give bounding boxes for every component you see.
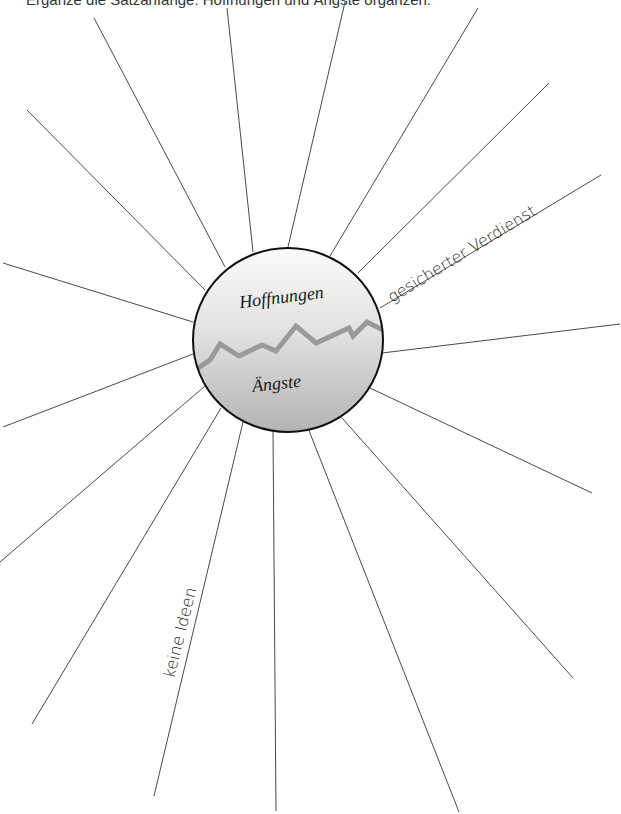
- ray-line: [288, 2, 345, 247]
- ray-line-filled: [154, 422, 243, 796]
- ray-line: [358, 83, 549, 273]
- ray-line: [27, 110, 205, 290]
- ray-line: [273, 431, 276, 811]
- ray-line: [227, 8, 253, 252]
- mind-map-worksheet: Ergänze die Satzanfänge: Hoffnungen und …: [0, 0, 621, 814]
- ray-line: [3, 263, 193, 322]
- ray-line: [330, 8, 478, 256]
- ray-line: [0, 386, 205, 562]
- ray-line: [308, 428, 459, 812]
- ray-line: [370, 388, 592, 493]
- ray-line: [3, 354, 193, 427]
- center-ball: Hoffnungen Ängste: [190, 248, 390, 432]
- ray-line: [382, 324, 620, 353]
- ray-line: [32, 408, 221, 724]
- answer-no-ideas: keine Ideen: [159, 585, 200, 680]
- sun-diagram: Hoffnungen Ängste gesicherter Verdienst …: [0, 0, 621, 814]
- ray-line: [94, 18, 225, 267]
- answer-secure-income: gesicherter Verdienst: [384, 201, 539, 306]
- ray-line: [342, 418, 573, 678]
